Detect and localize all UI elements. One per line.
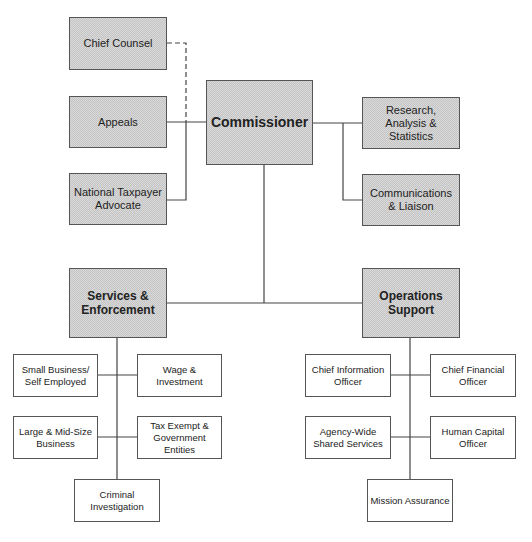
- label-operations-support: Operations Support: [379, 289, 442, 317]
- label-cio: Chief Information Officer: [312, 364, 384, 388]
- box-national-taxpayer-advocate: National Taxpayer Advocate: [69, 173, 167, 225]
- box-appeals: Appeals: [69, 96, 167, 148]
- label-criminal-investigation: Criminal Investigation: [90, 489, 143, 513]
- box-communications-liaison: Communications & Liaison: [362, 174, 460, 226]
- box-mission-assurance: Mission Assurance: [367, 479, 453, 522]
- box-cfo: Chief Financial Officer: [430, 354, 516, 397]
- box-chief-counsel: Chief Counsel: [69, 17, 167, 70]
- label-large-midsize: Large & Mid-Size Business: [19, 426, 92, 450]
- label-national-taxpayer-advocate: National Taxpayer Advocate: [74, 186, 162, 212]
- label-wage-investment: Wage & Investment: [156, 364, 202, 388]
- label-chief-counsel: Chief Counsel: [83, 37, 152, 50]
- label-mission-assurance: Mission Assurance: [370, 495, 449, 507]
- box-cio: Chief Information Officer: [305, 354, 391, 397]
- label-commissioner: Commissioner: [211, 116, 308, 129]
- label-tax-exempt: Tax Exempt & Government Entities: [140, 420, 219, 456]
- label-appeals: Appeals: [98, 116, 138, 129]
- box-criminal-investigation: Criminal Investigation: [74, 479, 160, 522]
- box-research-analysis-statistics: Research, Analysis & Statistics: [362, 97, 460, 149]
- dashed-connector-chief-counsel: [167, 43, 186, 122]
- label-cfo: Chief Financial Officer: [442, 364, 505, 388]
- label-small-business: Small Business/ Self Employed: [22, 364, 90, 388]
- box-services-enforcement: Services & Enforcement: [69, 268, 167, 338]
- org-chart: Chief Counsel Appeals National Taxpayer …: [0, 0, 532, 542]
- connector-nta: [167, 122, 186, 200]
- box-hco: Human Capital Officer: [430, 416, 516, 459]
- box-small-business: Small Business/ Self Employed: [13, 354, 98, 397]
- box-large-midsize: Large & Mid-Size Business: [13, 416, 98, 459]
- box-operations-support: Operations Support: [362, 268, 460, 338]
- box-awss: Agency-Wide Shared Services: [305, 416, 391, 459]
- label-services-enforcement: Services & Enforcement: [81, 289, 154, 317]
- connector-communications: [343, 123, 362, 200]
- box-wage-investment: Wage & Investment: [137, 354, 222, 397]
- label-hco: Human Capital Officer: [442, 426, 505, 450]
- box-commissioner: Commissioner: [206, 80, 313, 165]
- label-communications-liaison: Communications & Liaison: [370, 187, 452, 213]
- box-tax-exempt: Tax Exempt & Government Entities: [137, 416, 222, 459]
- label-research-analysis-statistics: Research, Analysis & Statistics: [385, 104, 436, 143]
- label-awss: Agency-Wide Shared Services: [313, 426, 383, 450]
